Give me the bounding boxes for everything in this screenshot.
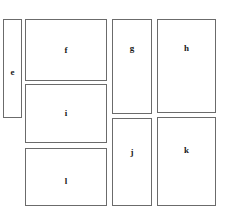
panel-i[interactable]: i <box>25 84 107 143</box>
panel-l[interactable]: l <box>25 148 107 206</box>
panel-h-label: h <box>184 44 189 53</box>
panel-e-label: e <box>11 68 15 77</box>
panel-k-label: k <box>184 146 189 155</box>
panel-j-label: j <box>131 148 134 157</box>
panel-j[interactable]: j <box>112 118 152 206</box>
panel-f[interactable]: f <box>25 19 107 81</box>
panel-f-label: f <box>65 46 68 55</box>
panel-g-label: g <box>130 44 135 53</box>
panel-k[interactable]: k <box>157 117 216 206</box>
panel-e[interactable]: e <box>3 19 22 118</box>
panel-h[interactable]: h <box>157 19 216 113</box>
panel-i-label: i <box>65 109 68 118</box>
panel-g[interactable]: g <box>112 19 152 114</box>
panel-layout-diagram: e f g h i j k l <box>0 0 230 218</box>
panel-l-label: l <box>65 177 68 186</box>
